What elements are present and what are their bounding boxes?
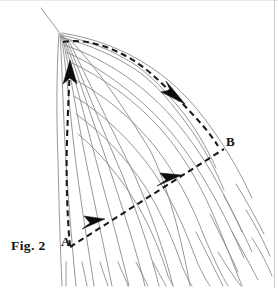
flowline-06 — [66, 38, 159, 286]
flowline-right-03 — [210, 214, 238, 272]
point-label-a: A — [61, 235, 70, 248]
flowline-band-03 — [62, 33, 252, 198]
flowline-bottom-03 — [100, 262, 108, 286]
flowline-bottom-02 — [82, 262, 87, 286]
arrow-up-right-lower-icon — [82, 216, 105, 229]
flowline-right-04 — [196, 232, 223, 286]
flowline-upper-tangent — [41, 8, 59, 32]
flowline-band-02 — [60, 37, 224, 190]
flowline-07 — [68, 39, 173, 286]
flowline-right-06 — [232, 232, 258, 280]
flowline-right-07 — [218, 252, 241, 286]
figure-caption: Fig. 2 — [11, 239, 46, 253]
figure-canvas: Fig. 2 A B — [0, 0, 278, 288]
flowline-right-05 — [246, 210, 270, 256]
point-label-b: B — [226, 135, 235, 148]
flowline-bottom-06 — [153, 262, 166, 286]
flowline-right-08 — [252, 238, 272, 276]
dashed-path-left-line — [67, 66, 70, 246]
flowline-bottom-05 — [136, 262, 148, 286]
dashed-path-left — [67, 66, 70, 246]
flowline-group — [41, 8, 272, 286]
